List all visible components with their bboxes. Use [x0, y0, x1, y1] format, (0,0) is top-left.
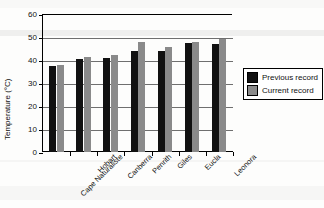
- y-tick-label: 40: [28, 57, 37, 65]
- legend-item-current-record: Current record: [247, 85, 318, 96]
- bar-current-record: [84, 57, 91, 152]
- bar-current-record: [165, 47, 172, 152]
- x-category-label: Eucla: [204, 153, 223, 172]
- bar-group: [131, 14, 146, 152]
- bar-group: [185, 14, 200, 152]
- y-tick-label: 10: [28, 126, 37, 134]
- y-tick-label: 20: [28, 103, 37, 111]
- bar-group: [158, 14, 173, 152]
- x-category-label: Giles: [176, 153, 193, 170]
- y-tick-label: 0: [33, 149, 37, 157]
- bar-current-record: [192, 42, 199, 152]
- y-axis-title-label: Temperature (°C): [4, 79, 12, 140]
- y-tick-label: 30: [28, 80, 37, 88]
- bar-previous-record: [185, 43, 192, 152]
- bar-group: [76, 14, 91, 152]
- bar-series-container: [43, 14, 233, 152]
- bar-previous-record: [49, 66, 56, 152]
- bar-current-record: [138, 42, 145, 152]
- bar-chart-figure: Temperature (°C) 6050403020100 Cape Natu…: [0, 0, 324, 208]
- x-axis-category-labels: Cape NaturalisteHobartCanberraPenrithGil…: [42, 153, 242, 208]
- x-category-label: Canberra: [126, 153, 153, 180]
- legend-swatch-icon: [247, 72, 258, 83]
- bar-previous-record: [131, 51, 138, 152]
- legend-item-previous-record: Previous record: [247, 72, 318, 83]
- legend-item-label: Current record: [262, 87, 314, 95]
- y-tick-label: 60: [28, 11, 37, 19]
- y-axis-title: Temperature (°C): [4, 36, 16, 146]
- bar-group: [49, 14, 64, 152]
- bar-previous-record: [76, 59, 83, 152]
- scan-artifact-band: [0, 0, 324, 8]
- x-category-label: Penrith: [151, 153, 173, 175]
- bar-group: [103, 14, 118, 152]
- bar-previous-record: [103, 58, 110, 152]
- y-tick-label: 50: [28, 34, 37, 42]
- x-category-label: Leonora: [233, 153, 258, 178]
- bar-group: [212, 14, 227, 152]
- bar-current-record: [57, 65, 64, 152]
- legend-item-label: Previous record: [262, 74, 318, 82]
- bar-previous-record: [212, 44, 219, 152]
- legend-swatch-icon: [247, 85, 258, 96]
- legend: Previous record Current record: [243, 68, 323, 100]
- bar-previous-record: [158, 51, 165, 152]
- bar-current-record: [219, 39, 226, 152]
- plot-area: 6050403020100: [42, 14, 232, 152]
- bar-current-record: [111, 55, 118, 152]
